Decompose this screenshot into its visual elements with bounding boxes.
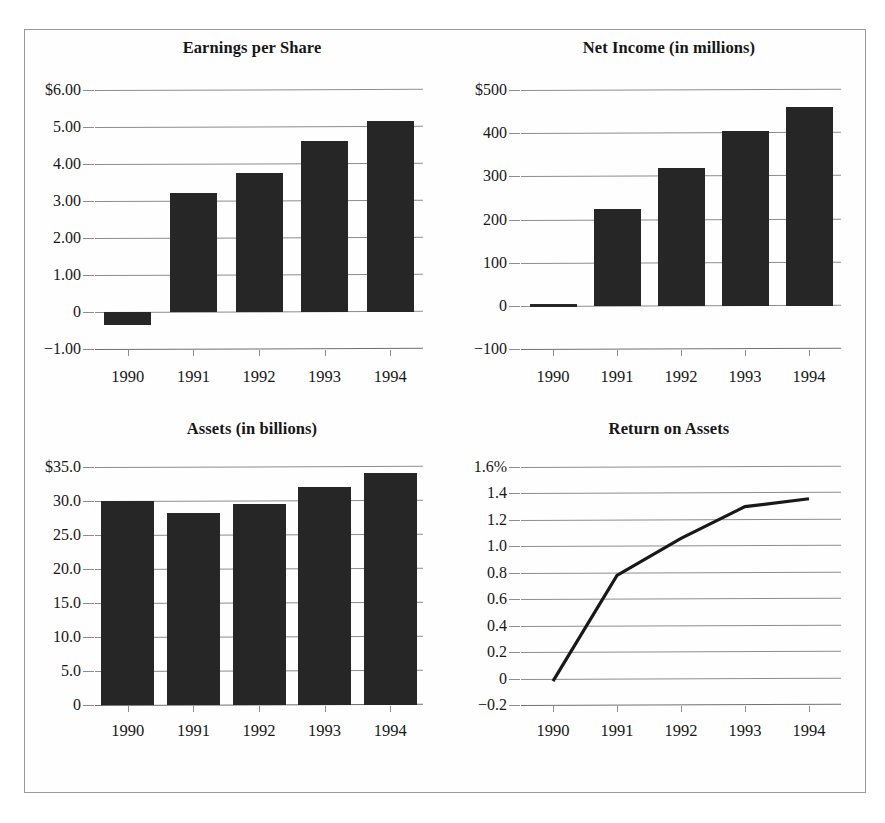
- y-axis-tick-label: 1.4: [427, 485, 507, 501]
- y-axis-tick: [83, 349, 94, 350]
- y-axis-tick-label: 15.0: [1, 595, 81, 611]
- y-axis-tick-label: 3.00: [1, 193, 81, 209]
- y-axis-tick-label: 5.00: [1, 119, 81, 135]
- y-axis-tick-label: 0.8: [427, 565, 507, 581]
- y-axis-tick: [509, 493, 520, 494]
- y-axis-tick-label: 0: [1, 697, 81, 713]
- y-axis-tick: [509, 520, 520, 521]
- x-axis-tick-label: 1992: [243, 369, 276, 386]
- gridline-net-income: [521, 89, 841, 91]
- y-axis-tick-label: −100: [427, 341, 507, 357]
- x-axis-tick-label: 1990: [111, 369, 144, 386]
- plot-wrap-return-on-assets: −0.200.20.40.60.81.01.21.41.6%1990199119…: [445, 411, 865, 792]
- x-axis-tick: [745, 350, 746, 356]
- y-axis-tick: [83, 569, 94, 570]
- plot-wrap-net-income: −1000100200300400$5001990199119921993199…: [445, 30, 865, 411]
- y-axis-tick-label: 400: [427, 125, 507, 141]
- y-axis-tick-label: 4.00: [1, 156, 81, 172]
- y-axis-tick-label: 0: [1, 304, 81, 320]
- y-axis-tick-label: 1.00: [1, 267, 81, 283]
- bar-earnings-per-share-1992: [236, 173, 283, 312]
- bar-net-income-1991: [594, 209, 641, 306]
- y-axis-tick-label: 0.4: [427, 618, 507, 634]
- chart-assets: Assets (in billions) 05.010.015.020.025.…: [25, 411, 445, 792]
- y-axis-tick-label: 0.6: [427, 591, 507, 607]
- x-axis-tick: [325, 350, 326, 356]
- bar-assets-1992: [233, 504, 286, 705]
- bar-earnings-per-share-1994: [367, 121, 414, 312]
- plot-wrap-assets: 05.010.015.020.025.030.0$35.019901991199…: [25, 411, 445, 792]
- bar-net-income-1990: [530, 304, 577, 308]
- chart-net-income: Net Income (in millions) −10001002003004…: [445, 30, 865, 411]
- x-axis-tick-label: 1993: [308, 369, 341, 386]
- x-axis-tick-label: 1991: [177, 369, 210, 386]
- data-line-return-on-assets: [553, 499, 809, 681]
- y-axis-tick-label: 2.00: [1, 230, 81, 246]
- y-axis-tick: [83, 603, 94, 604]
- y-axis-tick-label: −0.2: [427, 697, 507, 713]
- y-axis-tick: [83, 467, 94, 468]
- x-axis-tick-label: 1993: [729, 723, 762, 740]
- bar-net-income-1993: [722, 131, 769, 306]
- bar-net-income-1992: [658, 168, 705, 306]
- y-axis-tick: [509, 220, 520, 221]
- y-axis-tick: [83, 164, 94, 165]
- y-axis-tick: [83, 501, 94, 502]
- x-axis-tick: [809, 706, 810, 712]
- y-axis-tick: [509, 349, 520, 350]
- x-axis-tick: [809, 350, 810, 356]
- y-axis-tick: [509, 306, 520, 307]
- x-axis-tick-label: 1993: [308, 723, 341, 740]
- x-axis-tick-label: 1993: [729, 369, 762, 386]
- y-axis-tick-label: 1.2: [427, 512, 507, 528]
- y-axis-tick-label: 300: [427, 168, 507, 184]
- plot-wrap-earnings-per-share: −1.0001.002.003.004.005.00$6.00199019911…: [25, 30, 445, 411]
- y-axis-tick: [509, 626, 520, 627]
- x-axis-tick-label: 1991: [601, 723, 634, 740]
- x-axis-tick: [617, 350, 618, 356]
- y-axis-tick: [509, 705, 520, 706]
- line-series-return-on-assets: [521, 467, 841, 705]
- chart-return-on-assets: Return on Assets −0.200.20.40.60.81.01.2…: [445, 411, 865, 792]
- plot-area-assets: 05.010.015.020.025.030.0$35.019901991199…: [95, 467, 423, 705]
- x-axis-tick-label: 1991: [601, 369, 634, 386]
- chart-earnings-per-share: Earnings per Share −1.0001.002.003.004.0…: [25, 30, 445, 411]
- bar-earnings-per-share-1993: [301, 141, 348, 312]
- y-axis-tick: [509, 133, 520, 134]
- plot-area-return-on-assets: −0.200.20.40.60.81.01.21.41.6%1990199119…: [521, 467, 841, 705]
- y-axis-tick-label: −1.00: [1, 341, 81, 357]
- x-axis-tick: [128, 350, 129, 356]
- x-axis-tick: [390, 350, 391, 356]
- x-axis-tick-label: 1992: [665, 723, 698, 740]
- y-axis-tick-label: 0: [427, 671, 507, 687]
- y-axis-tick: [83, 238, 94, 239]
- document-page-frame: Earnings per Share −1.0001.002.003.004.0…: [24, 29, 866, 793]
- y-axis-tick: [83, 671, 94, 672]
- y-axis-tick: [509, 679, 520, 680]
- bar-earnings-per-share-1990: [104, 312, 151, 325]
- y-axis-tick-label: 100: [427, 255, 507, 271]
- y-axis-tick-label: $6.00: [1, 82, 81, 98]
- gridline-assets: [95, 466, 423, 468]
- y-axis-tick-label: 30.0: [1, 493, 81, 509]
- x-axis-tick-label: 1994: [793, 369, 826, 386]
- chart-grid: Earnings per Share −1.0001.002.003.004.0…: [25, 30, 865, 792]
- x-axis-tick: [390, 706, 391, 712]
- x-axis-tick: [681, 350, 682, 356]
- x-axis-tick: [128, 706, 129, 712]
- y-axis-tick: [83, 201, 94, 202]
- bar-net-income-1994: [786, 107, 833, 306]
- y-axis-tick: [83, 90, 94, 91]
- bar-assets-1993: [298, 487, 351, 705]
- x-axis-tick: [681, 706, 682, 712]
- y-axis-tick-label: 0.2: [427, 644, 507, 660]
- y-axis-tick: [509, 599, 520, 600]
- x-axis-tick-label: 1990: [537, 723, 570, 740]
- y-axis-tick: [83, 312, 94, 313]
- y-axis-tick: [83, 705, 94, 706]
- x-axis-tick: [325, 706, 326, 712]
- plot-area-earnings-per-share: −1.0001.002.003.004.005.00$6.00199019911…: [95, 90, 423, 349]
- x-axis-tick: [553, 706, 554, 712]
- plot-area-net-income: −1000100200300400$5001990199119921993199…: [521, 90, 841, 349]
- y-axis-tick: [509, 263, 520, 264]
